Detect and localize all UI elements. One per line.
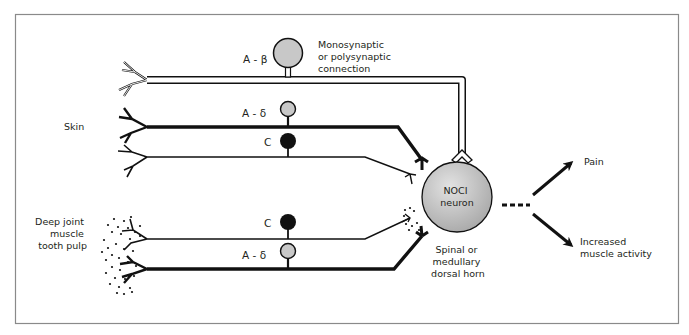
a-beta-label: A - β [243,53,267,65]
skin-region-label: Skin [64,121,84,132]
a-beta-terminal-icon [119,62,147,96]
skin-c-terminal-icon [118,145,147,177]
pain-label: Pain [584,156,604,167]
dorsal-horn-label: Spinal or medullary dorsal horn [431,244,485,279]
deep-c-soma [280,214,296,230]
muscle-activity-label: Increased muscle activity [580,236,652,259]
skin-c-soma [280,133,296,149]
deep-a-delta-synapse-icon [416,226,428,236]
deep-c-axon [147,218,410,239]
pain-arrow-icon [533,163,571,195]
nociception-diagram: A - β Monosynaptic or polysynaptic conne… [0,0,689,335]
skin-a-delta-terminal-icon [119,108,147,143]
deep-a-delta-fiber [120,226,428,283]
deep-c-label: C [264,217,271,229]
skin-c-axon [147,157,410,174]
connection-label: Monosynaptic or polysynaptic connection [318,39,394,74]
noci-neuron-label: NOCI neuron [440,185,473,208]
deep-c-terminal-icon [122,219,147,250]
a-beta-soma [274,39,303,68]
skin-a-delta-fiber [119,108,428,170]
deep-region-label: Deep joint muscle tooth pulp [35,216,87,251]
deep-a-delta-label: A - δ [242,249,266,261]
skin-a-delta-label: A - δ [242,107,266,119]
a-beta-fiber [119,39,472,164]
a-beta-synapse-icon [452,150,472,163]
deep-a-delta-soma [281,244,296,259]
muscle-arrow-icon [533,214,571,245]
skin-c-fiber [118,145,416,184]
skin-c-synapse-icon [405,174,416,184]
skin-a-delta-soma [281,102,296,117]
skin-a-delta-synapse-icon [415,158,428,170]
skin-c-label: C [264,136,271,148]
